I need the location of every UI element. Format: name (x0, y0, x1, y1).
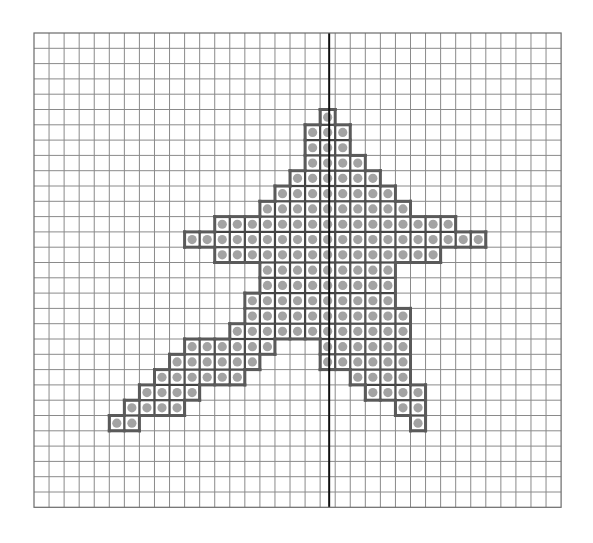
dot-marker (368, 311, 377, 320)
dot-marker (308, 158, 317, 167)
dot-marker (188, 373, 197, 382)
dot-marker (218, 235, 227, 244)
dot-marker (353, 296, 362, 305)
dot-marker (353, 250, 362, 259)
dot-marker (413, 403, 422, 412)
dot-marker (474, 235, 483, 244)
dot-marker (338, 311, 347, 320)
dot-marker (248, 250, 257, 259)
dot-marker (353, 266, 362, 275)
dot-marker (428, 250, 437, 259)
dot-marker (308, 266, 317, 275)
dot-marker (413, 235, 422, 244)
dot-marker (188, 235, 197, 244)
dot-marker (308, 281, 317, 290)
dot-marker (338, 143, 347, 152)
dot-marker (398, 220, 407, 229)
dot-marker (353, 373, 362, 382)
dot-marker (233, 250, 242, 259)
dot-marker (293, 235, 302, 244)
dot-marker (398, 388, 407, 397)
dot-marker (323, 220, 332, 229)
dot-marker (383, 235, 392, 244)
dot-marker (323, 204, 332, 213)
dot-marker (233, 235, 242, 244)
star-shape (110, 110, 486, 430)
dot-marker (308, 174, 317, 183)
dot-marker (383, 250, 392, 259)
dot-marker (248, 357, 257, 366)
dot-marker (308, 189, 317, 198)
dot-marker (413, 388, 422, 397)
dot-marker (263, 266, 272, 275)
dot-marker (338, 235, 347, 244)
dot-marker (203, 342, 212, 351)
dot-marker (278, 250, 287, 259)
dot-marker (233, 327, 242, 336)
dot-marker (278, 204, 287, 213)
dot-marker (323, 250, 332, 259)
dot-marker (233, 220, 242, 229)
dot-marker (368, 250, 377, 259)
dot-marker (323, 281, 332, 290)
dot-marker (203, 373, 212, 382)
dot-marker (278, 266, 287, 275)
dot-marker (278, 296, 287, 305)
dot-marker (383, 296, 392, 305)
dot-marker (293, 281, 302, 290)
dot-marker (323, 342, 332, 351)
dot-marker (308, 327, 317, 336)
dot-marker (413, 250, 422, 259)
dot-marker (263, 204, 272, 213)
dot-marker (293, 204, 302, 213)
dot-marker (353, 189, 362, 198)
dot-marker (398, 373, 407, 382)
dot-marker (323, 327, 332, 336)
dot-marker (368, 220, 377, 229)
dot-marker (383, 388, 392, 397)
dot-marker (338, 281, 347, 290)
dot-marker (353, 204, 362, 213)
dot-marker (353, 311, 362, 320)
dot-marker (413, 220, 422, 229)
dot-marker (293, 174, 302, 183)
dot-marker (248, 342, 257, 351)
dot-marker (293, 311, 302, 320)
dot-marker (127, 403, 136, 412)
dot-marker (353, 158, 362, 167)
dot-marker (263, 327, 272, 336)
dot-marker (398, 235, 407, 244)
dot-marker (368, 281, 377, 290)
dot-marker (338, 357, 347, 366)
dot-marker (398, 311, 407, 320)
dot-marker (248, 235, 257, 244)
dot-marker (233, 342, 242, 351)
dot-marker (263, 311, 272, 320)
dot-marker (323, 189, 332, 198)
dot-marker (398, 357, 407, 366)
dot-marker (353, 281, 362, 290)
dot-marker (444, 220, 453, 229)
dot-marker (263, 342, 272, 351)
dot-marker (323, 266, 332, 275)
dot-marker (368, 266, 377, 275)
dot-marker (112, 419, 121, 428)
dot-marker (368, 357, 377, 366)
dot-marker (142, 388, 151, 397)
dot-marker (248, 327, 257, 336)
dot-marker (338, 158, 347, 167)
dot-marker (308, 143, 317, 152)
dot-marker (127, 419, 136, 428)
dot-marker (353, 220, 362, 229)
dot-marker (353, 342, 362, 351)
dot-marker (398, 204, 407, 213)
dot-marker (338, 128, 347, 137)
dot-marker (263, 220, 272, 229)
dot-marker (308, 220, 317, 229)
dot-marker (157, 388, 166, 397)
dot-marker (278, 281, 287, 290)
dot-marker (398, 342, 407, 351)
dot-marker (188, 342, 197, 351)
dot-marker (218, 373, 227, 382)
dot-marker (368, 174, 377, 183)
